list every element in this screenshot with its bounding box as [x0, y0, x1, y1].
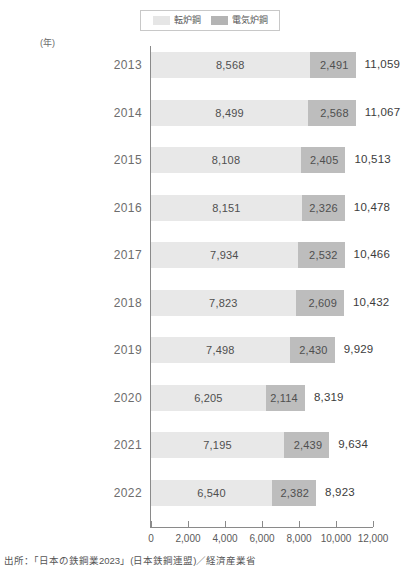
bar-segment-converter: 8,151	[151, 195, 302, 221]
bar-segment-converter: 8,108	[151, 147, 301, 173]
x-axis-tick-label: 12,000	[358, 533, 389, 544]
chart-row: 20197,4982,4309,929	[0, 331, 411, 378]
bar-total-label: 10,466	[354, 248, 390, 260]
bar-value-label-converter: 7,195	[203, 439, 232, 451]
stacked-bar: 8,4992,568	[151, 100, 356, 126]
bar-segment-converter: 8,568	[151, 52, 310, 78]
stacked-bar: 7,8232,609	[151, 290, 344, 316]
stacked-bar: 6,5402,382	[151, 480, 316, 506]
row-year-label: 2022	[16, 486, 142, 500]
bar-value-label-electric: 2,326	[309, 202, 338, 214]
chart-row: 20206,2052,1148,319	[0, 379, 411, 426]
x-axis-tick-label: 2,000	[175, 533, 200, 544]
chart-row: 20226,5402,3828,923	[0, 474, 411, 521]
bar-total-label: 10,513	[354, 153, 390, 165]
row-year-label: 2019	[16, 343, 142, 357]
legend-item-converter: 転炉鋼	[153, 16, 201, 25]
stacked-bar: 7,4982,430	[151, 337, 335, 363]
bar-value-label-electric: 2,439	[294, 439, 323, 451]
row-year-label: 2013	[16, 58, 142, 72]
bar-value-label-converter: 7,498	[206, 344, 235, 356]
stacked-bar: 8,1082,405	[151, 147, 345, 173]
bar-total-label: 8,319	[314, 391, 344, 403]
bar-segment-converter: 6,540	[151, 480, 272, 506]
row-year-label: 2021	[16, 438, 142, 452]
chart-plot-area: 20138,5682,49111,05920148,4992,56811,067…	[0, 46, 411, 527]
bar-value-label-electric: 2,114	[270, 392, 298, 404]
bar-segment-converter: 7,934	[151, 242, 298, 268]
stacked-bar: 7,9342,532	[151, 242, 345, 268]
legend-swatch-converter-icon	[153, 16, 170, 25]
bar-segment-electric: 2,382	[272, 480, 316, 506]
row-year-label: 2020	[16, 391, 142, 405]
bar-value-label-electric: 2,491	[320, 59, 349, 71]
bar-total-label: 11,059	[365, 58, 401, 70]
x-axis-tick-label: 8,000	[286, 533, 311, 544]
bar-total-label: 9,929	[344, 343, 374, 355]
bar-value-label-electric: 2,568	[320, 107, 349, 119]
bar-segment-electric: 2,491	[310, 52, 356, 78]
bar-total-label: 8,923	[325, 486, 355, 498]
bar-segment-electric: 2,568	[308, 100, 356, 126]
legend-label-converter: 転炉鋼	[174, 16, 201, 25]
chart-row: 20168,1512,32610,478	[0, 189, 411, 236]
row-year-label: 2017	[16, 248, 142, 262]
bar-value-label-converter: 8,568	[216, 59, 245, 71]
chart-legend: 転炉鋼 電気炉鋼	[140, 10, 280, 31]
bar-segment-electric: 2,532	[298, 242, 345, 268]
stacked-bar: 7,1952,439	[151, 432, 329, 458]
x-axis-line	[150, 527, 373, 528]
bar-segment-converter: 6,205	[151, 385, 266, 411]
bar-value-label-electric: 2,532	[309, 249, 338, 261]
row-year-label: 2016	[16, 201, 142, 215]
bar-value-label-electric: 2,430	[299, 344, 328, 356]
bar-total-label: 10,432	[353, 296, 389, 308]
bar-value-label-electric: 2,382	[281, 487, 310, 499]
row-year-label: 2014	[16, 106, 142, 120]
bar-total-label: 11,067	[365, 106, 401, 118]
bar-value-label-electric: 2,405	[310, 154, 339, 166]
bar-segment-converter: 7,195	[151, 432, 284, 458]
chart-row: 20217,1952,4399,634	[0, 426, 411, 473]
legend-item-electric: 電気炉鋼	[211, 16, 268, 25]
bar-value-label-converter: 8,499	[215, 107, 244, 119]
bar-total-label: 10,478	[354, 201, 390, 213]
bar-value-label-converter: 6,540	[197, 487, 226, 499]
bar-value-label-converter: 8,108	[212, 154, 241, 166]
bar-segment-converter: 7,823	[151, 290, 296, 316]
row-year-label: 2015	[16, 153, 142, 167]
legend-swatch-electric-icon	[211, 16, 228, 25]
chart-row: 20177,9342,53210,466	[0, 236, 411, 283]
bar-value-label-converter: 6,205	[194, 392, 223, 404]
x-axis-tick-label: 10,000	[321, 533, 352, 544]
bar-segment-converter: 8,499	[151, 100, 308, 126]
stacked-bar: 8,1512,326	[151, 195, 345, 221]
bar-segment-electric: 2,430	[290, 337, 335, 363]
chart-row: 20158,1082,40510,513	[0, 141, 411, 188]
x-axis-tick-label: 6,000	[249, 533, 274, 544]
bar-segment-electric: 2,405	[301, 147, 345, 173]
chart-row: 20148,4992,56811,067	[0, 94, 411, 141]
stacked-bar: 8,5682,491	[151, 52, 356, 78]
bar-value-label-converter: 7,934	[210, 249, 239, 261]
chart-row: 20138,5682,49111,059	[0, 46, 411, 93]
legend-label-electric: 電気炉鋼	[232, 16, 268, 25]
bar-segment-electric: 2,439	[284, 432, 329, 458]
x-axis-tick-label: 4,000	[212, 533, 237, 544]
bar-value-label-converter: 8,151	[212, 202, 241, 214]
bar-total-label: 9,634	[338, 438, 368, 450]
x-axis-tick-label: 0	[148, 533, 154, 544]
bar-segment-electric: 2,609	[296, 290, 344, 316]
row-year-label: 2018	[16, 296, 142, 310]
source-footnote: 出所：「日本の鉄鋼業2023」(日本鉄鋼連盟)／経済産業省	[4, 553, 256, 567]
bar-segment-electric: 2,326	[302, 195, 345, 221]
bar-value-label-electric: 2,609	[308, 297, 337, 309]
bar-value-label-converter: 7,823	[209, 297, 238, 309]
bar-segment-converter: 7,498	[151, 337, 290, 363]
chart-row: 20187,8232,60910,432	[0, 284, 411, 331]
stacked-bar: 6,2052,114	[151, 385, 305, 411]
bar-segment-electric: 2,114	[266, 385, 305, 411]
